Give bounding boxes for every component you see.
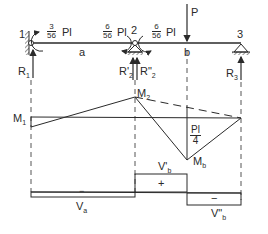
reaction-r2-prime-label: R'2: [119, 66, 133, 79]
moment-2-left-fraction: 6 56: [103, 23, 112, 40]
shear-sign-b-double-prime: −: [211, 193, 217, 204]
shear-sign-a: −: [79, 187, 84, 196]
moment-1-unit: Pl: [62, 27, 72, 38]
shear-vb-double-prime-label: V"b: [211, 208, 226, 221]
reaction-r2-double-prime-label: R"2: [140, 66, 156, 79]
moment-diagram: [31, 97, 241, 160]
moment-2-left-unit: Pl: [117, 27, 127, 38]
moment-2-right-unit: Pl: [166, 27, 176, 38]
moment-1-fraction: 3 56: [47, 23, 56, 40]
moment-mb-label: Mb: [193, 156, 206, 169]
reaction-r3-label: R3: [226, 68, 238, 81]
moment-m1-label: M1: [13, 113, 26, 126]
node-2-label: 2: [131, 25, 137, 36]
simple-moment-fraction: Pl 4: [190, 125, 201, 146]
guide-lines: [31, 50, 241, 200]
reaction-r1-label: R1: [18, 66, 30, 79]
moment-m2-label: M2: [137, 88, 150, 101]
load-label: P: [191, 7, 198, 18]
support-1-wall: [25, 31, 34, 55]
shear-diagram: [31, 174, 241, 205]
shear-vb-prime-label: V'b: [158, 161, 171, 174]
span-b-label: b: [184, 47, 190, 58]
support-3-pin: [232, 44, 250, 55]
shear-va-label: Va: [76, 201, 87, 214]
node-3-label: 3: [237, 29, 243, 40]
span-a-label: a: [79, 47, 85, 58]
moment-arrow-2-right-icon: [139, 36, 151, 52]
moment-2-right-fraction: 6 56: [152, 23, 161, 40]
shear-sign-b-prime: +: [158, 178, 164, 189]
node-1-label: 1: [19, 29, 25, 40]
